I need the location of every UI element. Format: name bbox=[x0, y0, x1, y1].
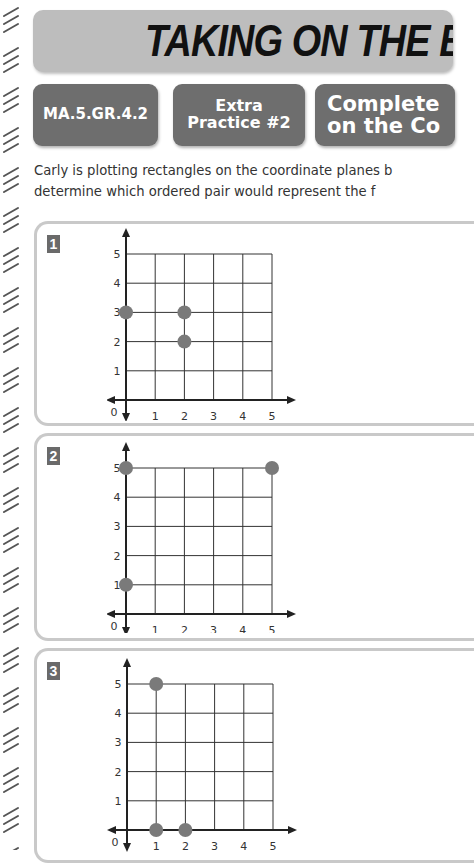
svg-text:4: 4 bbox=[115, 707, 122, 720]
plotted-point bbox=[177, 335, 191, 349]
svg-text:5: 5 bbox=[269, 624, 276, 633]
svg-text:4: 4 bbox=[239, 410, 246, 421]
svg-text:2: 2 bbox=[181, 624, 188, 633]
instructions-line2: determine which ordered pair would repre… bbox=[34, 181, 454, 202]
svg-text:5: 5 bbox=[270, 840, 277, 853]
svg-text:1: 1 bbox=[152, 410, 159, 421]
svg-text:1: 1 bbox=[114, 365, 121, 378]
instructions-text: Carly is plotting rectangles on the coor… bbox=[34, 160, 454, 202]
svg-text:0: 0 bbox=[111, 620, 118, 633]
x-axis-arrow-right-icon bbox=[287, 610, 296, 618]
y-axis-arrow-down-icon bbox=[122, 413, 130, 421]
grid-lines bbox=[126, 254, 272, 400]
svg-text:1: 1 bbox=[152, 624, 159, 633]
topic-label-line2: on the Co bbox=[327, 115, 440, 137]
coordinate-plane-1: 12345123450 bbox=[107, 221, 307, 421]
practice-tag: Extra Practice #2 bbox=[173, 84, 305, 146]
svg-text:5: 5 bbox=[114, 248, 121, 261]
plotted-point bbox=[178, 823, 192, 837]
svg-text:4: 4 bbox=[114, 491, 121, 504]
svg-text:2: 2 bbox=[114, 336, 121, 349]
svg-text:3: 3 bbox=[114, 520, 121, 533]
y-axis-arrow-down-icon bbox=[122, 627, 130, 633]
svg-text:3: 3 bbox=[210, 410, 217, 421]
problem-number-badge: 2 bbox=[47, 447, 60, 465]
svg-text:5: 5 bbox=[115, 678, 122, 691]
y-axis-arrow-up-icon bbox=[122, 228, 130, 237]
svg-text:4: 4 bbox=[240, 840, 247, 853]
svg-text:5: 5 bbox=[269, 410, 276, 421]
axis-labels: 12345123450 bbox=[111, 248, 276, 421]
axes bbox=[107, 228, 296, 421]
svg-text:2: 2 bbox=[115, 766, 122, 779]
coordinate-plane-3: 12345123450 bbox=[107, 648, 307, 858]
header-banner: TAKING ON THE B bbox=[33, 10, 453, 72]
svg-text:3: 3 bbox=[115, 736, 122, 749]
svg-text:0: 0 bbox=[112, 836, 119, 849]
x-axis-arrow-right-icon bbox=[287, 396, 296, 404]
plotted-point bbox=[177, 305, 191, 319]
problem-panel-3: 3 12345123450 bbox=[34, 648, 474, 863]
svg-text:3: 3 bbox=[210, 624, 217, 633]
decorative-stripes bbox=[0, 0, 24, 850]
axis-labels: 12345123450 bbox=[112, 678, 277, 853]
svg-text:4: 4 bbox=[239, 624, 246, 633]
problem-number-badge: 3 bbox=[47, 662, 60, 680]
x-axis-arrow-left-icon bbox=[107, 826, 116, 834]
grid-lines bbox=[126, 468, 272, 614]
problem-number-badge: 1 bbox=[47, 235, 60, 253]
problem-panel-2: 2 12345123450 bbox=[34, 433, 474, 641]
problem-panel-1: 1 12345123450 bbox=[34, 221, 474, 426]
svg-text:4: 4 bbox=[114, 277, 121, 290]
svg-text:0: 0 bbox=[111, 406, 118, 419]
standard-label: MA.5.GR.4.2 bbox=[43, 107, 148, 123]
practice-label-line2: Practice #2 bbox=[187, 115, 290, 132]
svg-text:3: 3 bbox=[211, 840, 218, 853]
x-axis-arrow-left-icon bbox=[107, 610, 115, 618]
axes bbox=[107, 658, 297, 852]
plotted-point bbox=[119, 578, 133, 592]
grid-lines bbox=[127, 684, 273, 830]
coordinate-plane-2: 12345123450 bbox=[107, 433, 307, 633]
plotted-point bbox=[149, 823, 163, 837]
y-axis-arrow-up-icon bbox=[122, 442, 130, 451]
plotted-points bbox=[149, 677, 192, 837]
svg-text:2: 2 bbox=[114, 550, 121, 563]
plotted-point bbox=[119, 305, 133, 319]
x-axis-arrow-right-icon bbox=[288, 826, 297, 834]
standard-tag: MA.5.GR.4.2 bbox=[33, 84, 158, 146]
svg-text:1: 1 bbox=[153, 840, 160, 853]
axis-labels: 12345123450 bbox=[111, 462, 276, 633]
instructions-line1: Carly is plotting rectangles on the coor… bbox=[34, 160, 454, 181]
x-axis-arrow-left-icon bbox=[107, 396, 115, 404]
svg-text:2: 2 bbox=[182, 840, 189, 853]
y-axis-arrow-down-icon bbox=[123, 843, 131, 852]
svg-text:1: 1 bbox=[115, 795, 122, 808]
svg-text:2: 2 bbox=[181, 410, 188, 421]
topic-tag: Complete on the Co bbox=[315, 84, 455, 146]
topic-label-line1: Complete bbox=[327, 93, 439, 115]
plotted-point bbox=[265, 461, 279, 475]
page-title: TAKING ON THE B bbox=[145, 16, 453, 66]
y-axis-arrow-up-icon bbox=[123, 658, 131, 667]
plotted-point bbox=[119, 461, 133, 475]
plotted-point bbox=[149, 677, 163, 691]
